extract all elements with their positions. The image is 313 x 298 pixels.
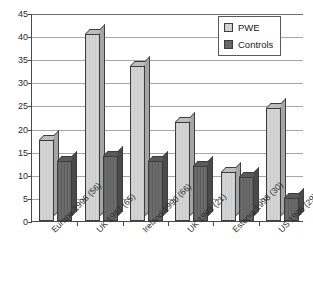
legend-swatch-controls bbox=[224, 40, 233, 49]
legend-label-controls: Controls bbox=[238, 40, 273, 50]
y-axis-tick-label: 35 bbox=[4, 56, 28, 65]
bar-group bbox=[130, 14, 163, 221]
y-axis-tick-label: 5 bbox=[4, 194, 28, 203]
bar-pwe bbox=[39, 140, 54, 221]
y-axis-tick-label: 20 bbox=[4, 125, 28, 134]
y-axis-tick-label: 25 bbox=[4, 102, 28, 111]
x-axis-tick bbox=[168, 221, 169, 226]
x-axis-tick bbox=[213, 221, 214, 226]
bar-front-face bbox=[266, 108, 281, 221]
y-axis-tick-label: 15 bbox=[4, 148, 28, 157]
x-axis-tick bbox=[259, 221, 260, 226]
y-axis-tick bbox=[28, 222, 32, 223]
bar-pwe bbox=[175, 122, 190, 221]
bar-front-face bbox=[39, 140, 54, 221]
legend-swatch-pwe bbox=[224, 23, 233, 32]
legend-label-pwe: PWE bbox=[238, 23, 260, 33]
x-axis-tick bbox=[123, 221, 124, 226]
y-axis-tick-label: 0 bbox=[4, 218, 28, 227]
legend-item-pwe: PWE bbox=[224, 21, 273, 34]
x-axis-tick bbox=[77, 221, 78, 226]
bar-pwe bbox=[266, 108, 281, 221]
bar-front-face bbox=[175, 122, 190, 221]
y-axis-tick-label: 30 bbox=[4, 79, 28, 88]
y-axis-tick-label: 45 bbox=[4, 10, 28, 19]
legend-item-controls: Controls bbox=[224, 38, 273, 51]
bar-chart: 051015202530354045 Europe 1996 (56)UK 19… bbox=[0, 0, 313, 298]
y-axis-tick-label: 40 bbox=[4, 33, 28, 42]
y-axis-tick-label: 10 bbox=[4, 171, 28, 180]
bar-group bbox=[39, 14, 72, 221]
chart-legend: PWE Controls bbox=[218, 16, 281, 56]
